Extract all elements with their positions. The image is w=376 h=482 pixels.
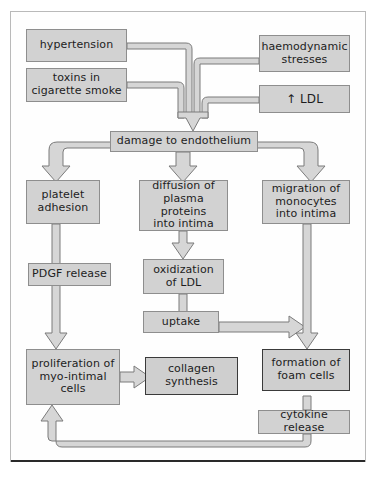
node-proliferation-myo-intimal[interactable]: proliferation of myo-intimal cells xyxy=(26,349,120,405)
node-haemodynamic-stresses[interactable]: haemodynamic stresses xyxy=(259,35,350,72)
edge-ldl-damage xyxy=(202,97,259,118)
node-collagen-synthesis[interactable]: collagen synthesis xyxy=(145,357,238,395)
node-platelet-adhesion[interactable]: platelet adhesion xyxy=(26,180,100,224)
edge-toxins-damage xyxy=(127,82,184,118)
node-oxidization-of-ldl[interactable]: oxidization of LDL xyxy=(143,259,224,294)
edge-oxidization-uptake xyxy=(179,294,187,312)
node-cytokine-release[interactable]: cytokine release xyxy=(258,410,350,434)
node-pdgf-release[interactable]: PDGF release xyxy=(28,263,111,286)
arrowhead-to-damage xyxy=(178,112,208,131)
node-damage-to-endothelium[interactable]: damage to endothelium xyxy=(110,131,258,152)
edge-diffusion-oxidization xyxy=(172,231,194,259)
node-diffusion-plasma-proteins[interactable]: diffusion of plasma proteins into intima xyxy=(139,180,228,231)
node-toxins[interactable]: toxins in cigarette smoke xyxy=(26,68,127,102)
node-uptake[interactable]: uptake xyxy=(143,311,219,333)
node-hypertension[interactable]: hypertension xyxy=(26,29,127,62)
edge-damage-diffusion xyxy=(169,152,197,182)
node-migration-monocytes[interactable]: migration of monocytes into intima xyxy=(262,180,350,224)
node-formation-foam-cells[interactable]: formation of foam cells xyxy=(262,349,350,391)
edge-platelet-proliferation xyxy=(45,224,67,349)
node-ldl[interactable]: ↑ LDL xyxy=(259,85,350,113)
edge-uptake-foam xyxy=(219,316,305,338)
